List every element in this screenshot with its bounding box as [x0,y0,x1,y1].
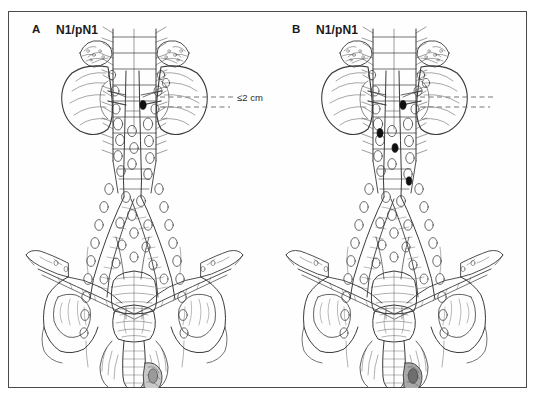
positive-lymph-nodes-b [377,101,412,186]
prostate-a [113,305,156,342]
kidneys-a [62,66,208,135]
pelvic-node-chain-b [347,184,441,270]
penis-scrotum-a [100,341,168,388]
adrenal-glands-a [80,41,189,67]
bony-pelvis-a [26,251,243,364]
bony-pelvis-b [286,251,503,364]
panel-a-anatomy [8,11,268,388]
panel-b: B N1/pN1 [268,11,528,388]
pelvic-node-chain-a [87,184,181,270]
penis-scrotum-b [360,341,428,388]
kidneys-b [322,66,468,135]
size-annotation-leader-b [420,97,496,107]
size-annotation-a: ≤2 cm [237,92,263,103]
panel-a: A N1/pN1 [8,11,268,388]
figure-container: A N1/pN1 [0,0,536,399]
size-annotation-leader-a [160,97,236,107]
adrenal-glands-b [340,41,449,67]
prostate-b [373,305,416,342]
positive-lymph-node-a [140,101,146,110]
panel-b-anatomy [268,11,528,388]
